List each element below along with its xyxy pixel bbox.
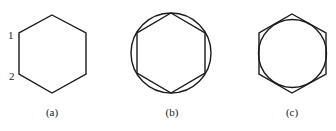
figure-b: (b) <box>131 13 211 119</box>
vertex-label-2: 2 <box>9 70 15 82</box>
figure-canvas: 1 2 (a) (b) (c) <box>0 0 336 131</box>
caption-b: (b) <box>166 106 179 119</box>
hexagon-a <box>19 15 86 93</box>
caption-c: (c) <box>286 106 299 119</box>
hexagon-b <box>137 13 205 93</box>
caption-a: (a) <box>46 106 59 119</box>
figure-c: (c) <box>259 14 327 119</box>
figure-a: 1 2 (a) <box>8 15 86 119</box>
inscribed-circle <box>259 20 327 88</box>
vertex-label-1: 1 <box>8 29 14 41</box>
hexagon-c <box>259 14 326 93</box>
circumscribed-circle <box>131 13 211 93</box>
